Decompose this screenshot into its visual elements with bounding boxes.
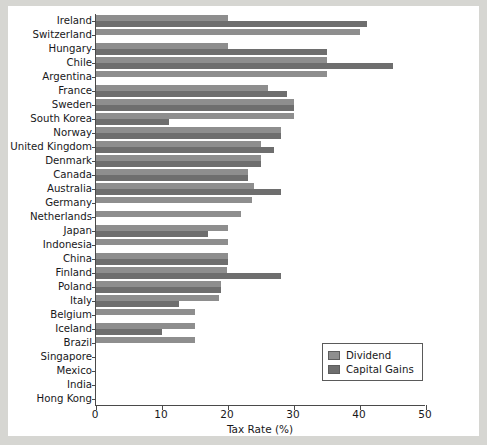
category-label: Finland	[56, 267, 92, 278]
bar-dividend	[96, 43, 228, 49]
x-axis-tick-labels: 01020304050	[95, 408, 425, 422]
chart-legend: Dividend Capital Gains	[322, 343, 423, 381]
bar-dividend	[96, 141, 261, 147]
bar-dividend	[96, 155, 261, 161]
y-axis-tick	[92, 343, 96, 344]
bar-capital-gains	[96, 175, 248, 181]
bar-dividend	[96, 239, 228, 245]
category-axis-labels: IrelandSwitzerlandHungaryChileArgentinaF…	[8, 14, 96, 404]
x-axis-tick-label: 10	[154, 408, 167, 420]
legend-item-capital-gains: Capital Gains	[328, 362, 414, 376]
y-axis-tick	[92, 77, 96, 78]
category-label: United Kingdom	[10, 141, 92, 152]
category-label: Denmark	[45, 155, 92, 166]
bar-dividend	[96, 183, 254, 189]
bar-dividend	[96, 281, 221, 287]
y-axis-tick	[92, 203, 96, 204]
bar-capital-gains	[96, 273, 281, 279]
category-label: Canada	[53, 169, 92, 180]
category-label: Belgium	[50, 309, 92, 320]
bar-capital-gains	[96, 287, 221, 293]
bar-capital-gains	[96, 147, 274, 153]
bar-capital-gains	[96, 105, 294, 111]
bar-dividend	[96, 127, 281, 133]
x-axis-tick-label: 0	[92, 408, 99, 420]
y-axis-tick	[92, 399, 96, 400]
category-label: Japan	[64, 225, 92, 236]
x-axis-tick-label: 20	[220, 408, 233, 420]
legend-swatch-capital-gains	[328, 365, 340, 374]
bar-dividend	[96, 15, 228, 21]
bar-dividend	[96, 323, 195, 329]
category-label: France	[58, 85, 92, 96]
bar-dividend	[96, 85, 268, 91]
chart-plot-wrapper: IrelandSwitzerlandHungaryChileArgentinaF…	[8, 6, 479, 436]
bar-dividend	[96, 253, 228, 259]
bar-capital-gains	[96, 301, 179, 307]
bar-dividend	[96, 99, 294, 105]
y-axis-tick	[92, 315, 96, 316]
category-label: Germany	[45, 197, 92, 208]
category-label: Netherlands	[30, 211, 92, 222]
bar-capital-gains	[96, 231, 208, 237]
y-axis-tick	[92, 357, 96, 358]
y-axis-tick	[92, 245, 96, 246]
category-label: Sweden	[52, 99, 92, 110]
chart-figure: IrelandSwitzerlandHungaryChileArgentinaF…	[8, 6, 479, 436]
category-label: South Korea	[30, 113, 92, 124]
bar-capital-gains	[96, 259, 228, 265]
category-label: India	[67, 379, 92, 390]
bar-dividend	[96, 57, 327, 63]
x-axis-title: Tax Rate (%)	[95, 423, 425, 435]
bar-capital-gains	[96, 161, 261, 167]
bar-dividend	[96, 29, 360, 35]
category-label: Hong Kong	[37, 393, 92, 404]
category-label: Indonesia	[43, 239, 92, 250]
bar-capital-gains	[96, 63, 393, 69]
bar-dividend	[96, 337, 195, 343]
category-label: Australia	[47, 183, 92, 194]
category-label: Hungary	[48, 43, 92, 54]
bar-dividend	[96, 295, 219, 301]
bar-capital-gains	[96, 119, 169, 125]
legend-label-dividend: Dividend	[346, 350, 391, 361]
category-label: Italy	[70, 295, 92, 306]
bar-capital-gains	[96, 133, 281, 139]
category-label: Mexico	[56, 365, 92, 376]
bar-dividend	[96, 197, 252, 203]
bar-dividend	[96, 225, 228, 231]
bar-dividend	[96, 169, 248, 175]
x-axis-tick-label: 30	[286, 408, 299, 420]
legend-swatch-dividend	[328, 351, 340, 360]
legend-item-dividend: Dividend	[328, 348, 414, 362]
category-label: Brazil	[64, 337, 92, 348]
category-label: China	[63, 253, 92, 264]
bar-capital-gains	[96, 329, 162, 335]
bar-dividend	[96, 309, 195, 315]
category-label: Ireland	[57, 15, 92, 26]
legend-label-capital-gains: Capital Gains	[346, 364, 414, 375]
category-label: Switzerland	[33, 29, 92, 40]
bar-capital-gains	[96, 49, 327, 55]
category-label: Poland	[58, 281, 92, 292]
category-label: Norway	[53, 127, 92, 138]
bar-capital-gains	[96, 189, 281, 195]
category-label: Iceland	[55, 323, 92, 334]
bar-dividend	[96, 267, 227, 273]
y-axis-tick	[92, 371, 96, 372]
category-label: Argentina	[42, 71, 92, 82]
y-axis-tick	[92, 385, 96, 386]
bar-capital-gains	[96, 21, 367, 27]
bar-dividend	[96, 71, 327, 77]
y-axis-tick	[92, 217, 96, 218]
x-axis-tick-label: 40	[352, 408, 365, 420]
bar-dividend	[96, 211, 241, 217]
category-label: Chile	[67, 57, 93, 68]
bar-dividend	[96, 113, 294, 119]
bar-capital-gains	[96, 91, 287, 97]
y-axis-tick	[92, 35, 96, 36]
x-axis-tick-label: 50	[418, 408, 431, 420]
category-label: Singapore	[41, 351, 92, 362]
